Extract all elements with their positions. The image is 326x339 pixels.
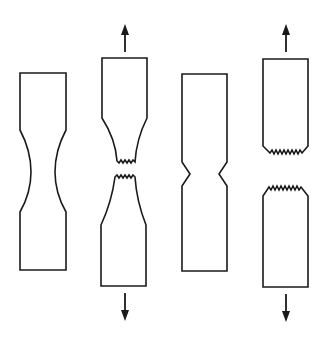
specimen-notched — [182, 74, 227, 271]
arrow-down-icon — [282, 294, 290, 322]
arrow-up-icon — [121, 24, 129, 52]
tensile-specimens-diagram — [0, 0, 326, 339]
specimen-outline — [182, 74, 227, 271]
upper-fracture-piece — [263, 59, 308, 154]
lower-fracture-piece — [263, 186, 308, 287]
arrow-up-icon — [282, 24, 290, 52]
lower-fracture-piece — [101, 175, 146, 286]
arrow-down-icon — [121, 293, 129, 321]
specimen-brittle-fractured — [263, 24, 308, 322]
specimen-ductile-fractured — [101, 24, 147, 321]
specimen-ductile-necked — [20, 73, 66, 270]
specimen-outline — [20, 73, 66, 270]
upper-fracture-piece — [102, 58, 147, 163]
